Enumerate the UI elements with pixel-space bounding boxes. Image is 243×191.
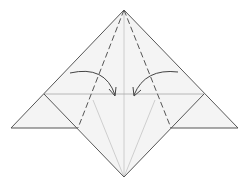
- origami-diagram: [0, 0, 243, 191]
